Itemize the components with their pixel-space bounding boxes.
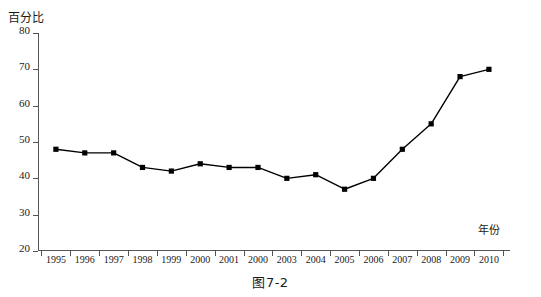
data-point-marker bbox=[53, 147, 58, 152]
y-axis-tick-label: 40 bbox=[19, 170, 30, 181]
x-axis-tick-label: 1998 bbox=[133, 255, 153, 265]
data-point-marker bbox=[429, 121, 434, 126]
x-axis-tick-mark bbox=[215, 251, 216, 256]
x-axis-unit-label: 年份 bbox=[478, 221, 500, 237]
plot-area: 80706050403020 1995199619971998199920002… bbox=[38, 33, 510, 251]
x-axis-tick-label: 2010 bbox=[479, 255, 499, 265]
x-axis-tick-mark bbox=[186, 251, 187, 256]
x-axis-tick-label: 2006 bbox=[363, 255, 383, 265]
x-axis-tick-mark bbox=[330, 251, 331, 256]
y-axis-tick-mark bbox=[33, 251, 38, 252]
data-point-marker bbox=[400, 147, 405, 152]
data-point-marker bbox=[313, 172, 318, 177]
x-axis-tick-mark bbox=[128, 251, 129, 256]
figure-container: 百分比 80706050403020 199519961997199819992… bbox=[0, 0, 541, 297]
y-axis-tick-label: 30 bbox=[19, 207, 30, 218]
x-axis-tick-mark bbox=[388, 251, 389, 256]
data-point-marker bbox=[371, 176, 376, 181]
x-axis-tick-label: 2000 bbox=[190, 255, 210, 265]
data-point-marker bbox=[342, 187, 347, 192]
data-point-marker bbox=[111, 150, 116, 155]
x-axis-tick-label: 2009 bbox=[450, 255, 470, 265]
data-point-marker bbox=[284, 176, 289, 181]
x-axis-tick-mark bbox=[244, 251, 245, 256]
x-axis-tick-label: 2004 bbox=[306, 255, 326, 265]
data-point-marker bbox=[255, 165, 260, 170]
x-axis-tick-mark bbox=[446, 251, 447, 256]
data-point-marker bbox=[140, 165, 145, 170]
x-axis-tick-mark bbox=[503, 251, 504, 256]
x-axis-tick-label: 2008 bbox=[421, 255, 441, 265]
x-axis-tick-label: 1996 bbox=[75, 255, 95, 265]
data-point-marker bbox=[457, 74, 462, 79]
x-axis-tick-mark bbox=[41, 251, 42, 256]
x-axis-tick-label: 1997 bbox=[104, 255, 124, 265]
x-axis-tick-mark bbox=[70, 251, 71, 256]
x-axis-tick-label: 2007 bbox=[392, 255, 412, 265]
line-series bbox=[38, 33, 510, 251]
data-point-marker bbox=[227, 165, 232, 170]
series-polyline bbox=[56, 69, 489, 189]
figure-caption: 图7-2 bbox=[0, 272, 541, 291]
x-axis-tick-mark bbox=[99, 251, 100, 256]
data-point-marker bbox=[198, 161, 203, 166]
x-axis-tick-label: 2005 bbox=[335, 255, 355, 265]
x-axis-tick-label: 2000 bbox=[248, 255, 268, 265]
x-axis-tick-mark bbox=[359, 251, 360, 256]
y-axis-tick-label: 80 bbox=[19, 25, 30, 36]
x-axis-tick-mark bbox=[417, 251, 418, 256]
data-point-marker bbox=[169, 168, 174, 173]
y-axis-unit-label: 百分比 bbox=[8, 8, 44, 25]
y-axis-tick-label: 70 bbox=[19, 61, 30, 72]
x-axis-tick-mark bbox=[272, 251, 273, 256]
x-axis-tick-label: 2001 bbox=[219, 255, 239, 265]
x-axis-tick-label: 2003 bbox=[277, 255, 297, 265]
x-axis-tick-mark bbox=[301, 251, 302, 256]
x-axis-tick-mark bbox=[474, 251, 475, 256]
y-axis-tick-label: 60 bbox=[19, 98, 30, 109]
x-axis-tick-label: 1999 bbox=[161, 255, 181, 265]
data-point-marker bbox=[82, 150, 87, 155]
data-point-marker bbox=[486, 67, 491, 72]
x-axis-tick-mark bbox=[157, 251, 158, 256]
x-axis-tick-label: 1995 bbox=[46, 255, 66, 265]
y-axis-tick-label: 50 bbox=[19, 134, 30, 145]
y-axis-tick-label: 20 bbox=[19, 243, 30, 254]
